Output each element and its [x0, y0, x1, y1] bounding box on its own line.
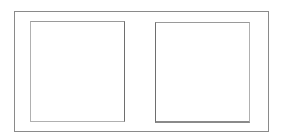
left-panel [30, 21, 125, 122]
right-panel [155, 22, 250, 123]
diagram-canvas [0, 0, 285, 140]
